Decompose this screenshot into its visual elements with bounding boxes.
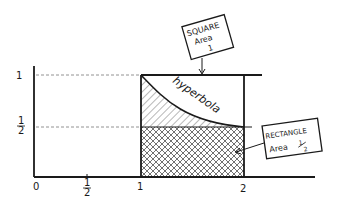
square-callout: SQUARE Area 1 bbox=[182, 15, 234, 60]
y-tick-1: 1 bbox=[16, 70, 22, 81]
y-tick-half-den: 2 bbox=[18, 125, 24, 136]
rectangle-area-crosshatch bbox=[141, 127, 244, 177]
hyperbola-area-hatch bbox=[141, 75, 244, 127]
x-tick-0: 0 bbox=[33, 181, 39, 192]
area-diagram: hyperbola 1 1 2 0 1 2 1 2 SQUARE Area 1 … bbox=[0, 0, 338, 209]
x-tick-1: 1 bbox=[137, 181, 143, 192]
x-tick-2: 2 bbox=[240, 183, 246, 194]
rectangle-callout: RECTANGLE Area 1 2 bbox=[262, 118, 322, 158]
x-tick-half-den: 2 bbox=[84, 187, 90, 198]
